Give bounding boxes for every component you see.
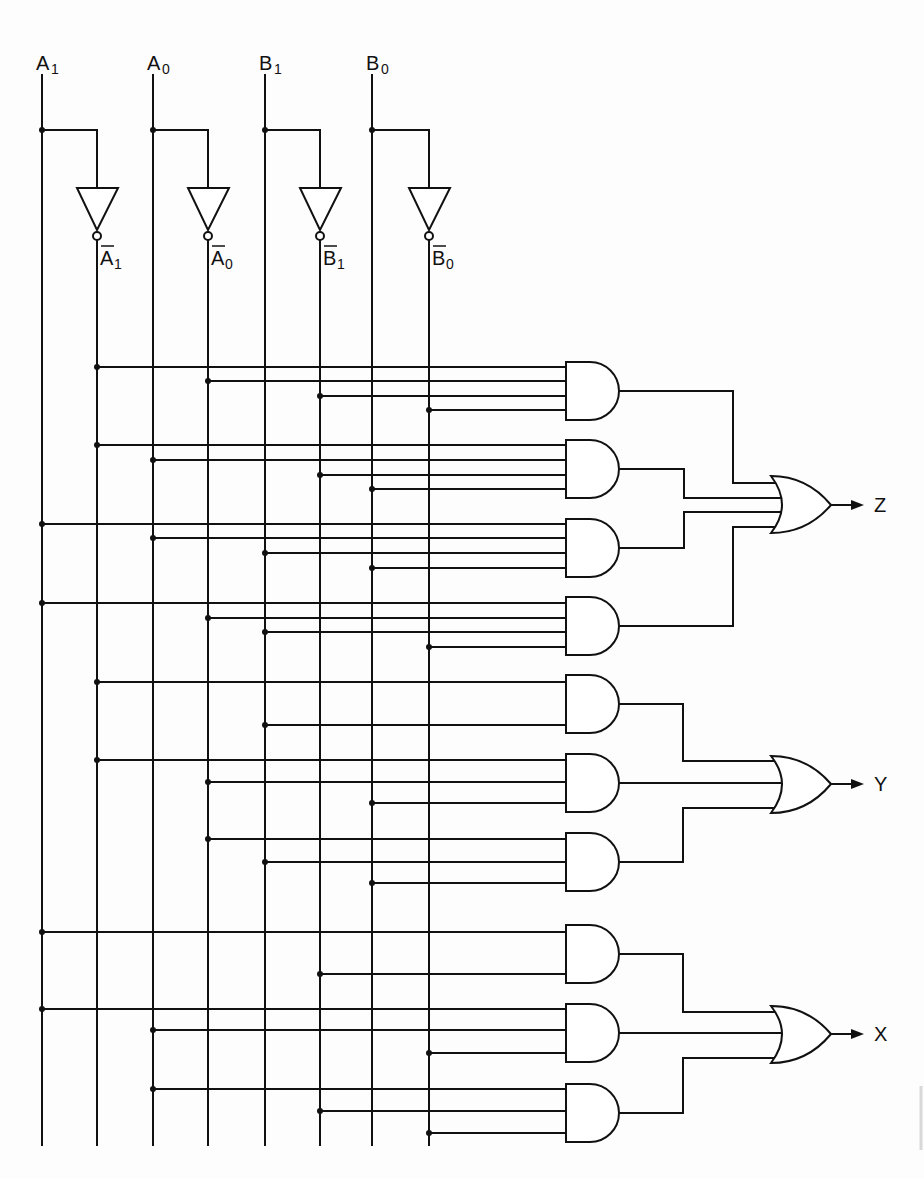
output-label-X: X xyxy=(874,1023,887,1045)
tap-dot xyxy=(369,880,375,886)
arrow-head-icon xyxy=(851,1029,864,1039)
tap-dot xyxy=(317,472,323,478)
tap-dot xyxy=(262,722,268,728)
not-gate-icon xyxy=(300,188,341,230)
or-input-wire-orY xyxy=(619,808,789,862)
or-input-wire-orX xyxy=(619,1058,789,1113)
output-label-Y: Y xyxy=(874,773,887,795)
tap-dot xyxy=(39,1006,45,1012)
tap-dot xyxy=(369,486,375,492)
tap-dot xyxy=(317,1108,323,1114)
not-gate-icon xyxy=(409,188,450,230)
branch-A0 xyxy=(153,130,208,188)
rail-label-sub-A0: 0 xyxy=(162,61,170,77)
and-gate-g7 xyxy=(566,833,619,891)
rail-label-sub-B0: 0 xyxy=(381,61,389,77)
and-gate-g10 xyxy=(566,1084,619,1142)
tap-dot xyxy=(94,757,100,763)
input-taps xyxy=(39,364,566,1136)
inversion-bubble xyxy=(425,232,433,240)
tap-dot xyxy=(262,550,268,556)
or-gate-orY xyxy=(771,756,831,813)
tap-dot xyxy=(426,1130,432,1136)
or-gate-orZ xyxy=(771,476,831,533)
rail-label-sub-A1n: 1 xyxy=(114,256,122,272)
tap-dot xyxy=(426,644,432,650)
not-gate-icon xyxy=(188,188,229,230)
rail-label-B0: B xyxy=(366,52,379,74)
tap-dot xyxy=(205,779,211,785)
tap-dot xyxy=(426,407,432,413)
output-label-Z: Z xyxy=(874,494,886,516)
tap-dot xyxy=(94,364,100,370)
tap-dot xyxy=(317,393,323,399)
and-gate-g2 xyxy=(566,440,619,498)
rail-label-B0n: B xyxy=(432,247,445,269)
and-gate-g9 xyxy=(566,1004,619,1062)
and-gate-g8 xyxy=(566,925,619,983)
tap-dot xyxy=(205,615,211,621)
tap-dot xyxy=(150,1086,156,1092)
tap-dot xyxy=(94,442,100,448)
tap-dot xyxy=(94,679,100,685)
rail-label-sub-B1: 1 xyxy=(274,61,282,77)
tap-dot xyxy=(317,971,323,977)
rail-label-sub-B1n: 1 xyxy=(337,256,345,272)
tap-dot xyxy=(150,1027,156,1033)
branch-B1 xyxy=(265,130,320,188)
arrow-head-icon xyxy=(851,500,864,510)
tap-dot xyxy=(369,800,375,806)
or-input-wire-orZ xyxy=(619,512,789,548)
and-gate-g5 xyxy=(566,675,619,733)
tap-dot xyxy=(205,378,211,384)
rail-label-B1: B xyxy=(259,52,272,74)
tap-dot xyxy=(262,629,268,635)
inversion-bubble xyxy=(316,232,324,240)
rail-label-A1n: A xyxy=(100,247,114,269)
and-gate-g4 xyxy=(566,597,619,655)
tap-dot xyxy=(262,859,268,865)
or-input-wire-orX xyxy=(619,954,789,1012)
and-gate-g6 xyxy=(566,754,619,812)
arrow-head-icon xyxy=(851,779,864,789)
tap-dot xyxy=(39,929,45,935)
inversion-bubble xyxy=(93,232,101,240)
tap-dot xyxy=(150,535,156,541)
rail-label-sub-A1: 1 xyxy=(51,61,59,77)
tap-dot xyxy=(39,521,45,527)
branch-A1 xyxy=(42,130,97,188)
and-gate-g3 xyxy=(566,519,619,577)
rail-label-A0n: A xyxy=(211,247,225,269)
branch-B0 xyxy=(372,130,429,188)
rail-label-A0: A xyxy=(147,52,161,74)
rail-label-A1: A xyxy=(36,52,50,74)
tap-dot xyxy=(150,457,156,463)
inversion-bubble xyxy=(204,232,212,240)
circuit-svg: A1A0B1B0 A1A0B1B0 ZYX xyxy=(0,0,924,1179)
or-input-wire-orY xyxy=(619,704,789,761)
rail-label-B1n: B xyxy=(323,247,336,269)
tap-dot xyxy=(426,1050,432,1056)
and-gates xyxy=(566,362,619,1142)
and-gate-g1 xyxy=(566,362,619,420)
rail-label-sub-A0n: 0 xyxy=(225,256,233,272)
tap-dot xyxy=(369,565,375,571)
rail-label-sub-B0n: 0 xyxy=(446,256,454,272)
not-gate-icon xyxy=(77,188,118,230)
tap-dot xyxy=(39,600,45,606)
or-input-wire-orZ xyxy=(619,527,789,626)
or-gate-orX xyxy=(771,1006,831,1063)
logic-diagram: A1A0B1B0 A1A0B1B0 ZYX xyxy=(0,0,924,1179)
or-gates: ZYX xyxy=(619,391,887,1113)
tap-dot xyxy=(205,836,211,842)
